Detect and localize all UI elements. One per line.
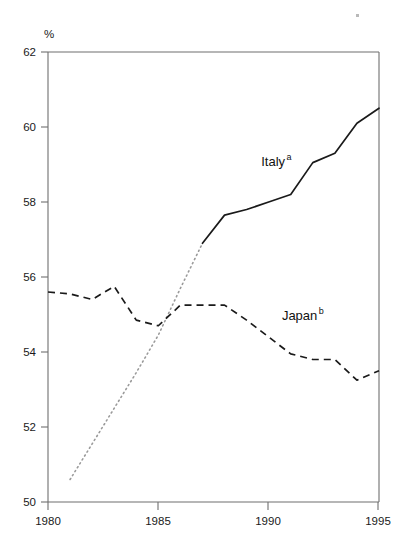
chart-container: % 62 60 58 56 54 52 50 <box>0 0 408 554</box>
y-axis-tick-labels: 62 60 58 56 54 52 50 <box>23 46 36 508</box>
x-tick-label-1980: 1980 <box>35 515 61 527</box>
y-tick-label-54: 54 <box>23 346 36 358</box>
italy-footnote-marker: a <box>287 152 292 162</box>
y-tick-label-56: 56 <box>23 271 36 283</box>
y-axis-ticks <box>41 52 48 502</box>
x-axis-ticks <box>48 502 378 510</box>
x-tick-label-1995: 1995 <box>365 515 391 527</box>
y-tick-label-60: 60 <box>23 121 36 133</box>
japan-series-line <box>48 286 379 380</box>
scan-artifact-speck <box>356 14 359 17</box>
italy-series-annotation: Italy a <box>261 152 291 169</box>
y-tick-label-52: 52 <box>23 421 36 433</box>
y-tick-label-58: 58 <box>23 196 36 208</box>
japan-footnote-marker: b <box>319 306 324 316</box>
japan-series-annotation: Japan b <box>282 306 324 323</box>
italy-dotted-series-line <box>70 243 202 479</box>
plot-frame <box>48 52 379 502</box>
y-tick-label-62: 62 <box>23 46 36 58</box>
italy-label-text: Italy <box>261 154 285 169</box>
x-axis-tick-labels: 1980 1985 1990 1995 <box>35 515 391 527</box>
line-chart-svg: % 62 60 58 56 54 52 50 <box>0 0 408 554</box>
y-axis-unit-label: % <box>44 28 54 40</box>
x-tick-label-1985: 1985 <box>145 515 171 527</box>
japan-label-text: Japan <box>282 308 317 323</box>
x-tick-label-1990: 1990 <box>255 515 281 527</box>
italy-solid-series-line <box>202 108 379 243</box>
y-tick-label-50: 50 <box>23 496 36 508</box>
